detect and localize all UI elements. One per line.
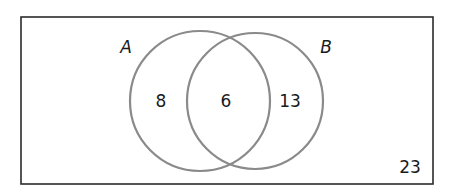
intersection-value: 6 (221, 91, 232, 111)
set-a-label: A (119, 37, 132, 57)
a-only-value: 8 (156, 91, 167, 111)
set-b-label: B (320, 37, 332, 57)
venn-diagram: A B 8 6 13 23 (0, 0, 454, 192)
b-only-value: 13 (279, 91, 301, 111)
outside-value: 23 (399, 157, 421, 177)
